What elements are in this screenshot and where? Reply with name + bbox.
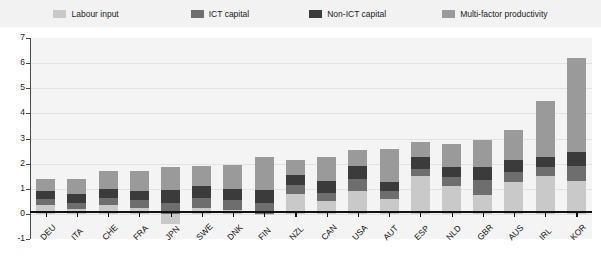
bar-column-usa[interactable] xyxy=(348,38,367,239)
bar-segment xyxy=(442,186,461,214)
bar-column-kor[interactable] xyxy=(567,38,586,239)
bar-column-can[interactable] xyxy=(317,38,336,239)
bar-column-nld[interactable] xyxy=(442,38,461,239)
x-axis-label-che: CHE xyxy=(100,222,120,242)
bar-segment xyxy=(473,167,492,180)
bar-segment xyxy=(67,194,86,203)
x-axis-label-jpn: JPN xyxy=(163,224,181,242)
legend-multi-factor-productivity-swatch-icon xyxy=(442,10,455,18)
bar-column-irl[interactable] xyxy=(536,38,555,239)
bar-segment xyxy=(161,190,180,203)
bar-column-swe[interactable] xyxy=(192,38,211,239)
bar-column-fra[interactable] xyxy=(130,38,149,239)
x-axis-tick-mark xyxy=(108,212,109,217)
x-axis-tick-mark xyxy=(483,212,484,217)
x-axis-label-aut: AUT xyxy=(381,223,400,242)
x-axis-tick-mark xyxy=(171,212,172,217)
bar-series-group xyxy=(30,38,592,239)
bar-segment xyxy=(192,166,211,186)
bar-segment xyxy=(348,150,367,166)
bar-segment xyxy=(223,200,242,210)
bar-segment xyxy=(442,144,461,168)
x-axis-label-usa: USA xyxy=(350,223,369,242)
x-axis-labels: DEUITACHEFRAJPNSWEDNKFINNZLCANUSAAUTESPN… xyxy=(30,219,592,261)
bar-segment xyxy=(348,166,367,179)
x-axis-tick-mark xyxy=(358,212,359,217)
bar-segment xyxy=(130,191,149,200)
bar-segment xyxy=(286,160,305,175)
legend-non-ict-capital-swatch-icon xyxy=(309,10,322,18)
x-axis-label-swe: SWE xyxy=(194,221,215,242)
bar-segment xyxy=(67,179,86,194)
bar-segment xyxy=(442,167,461,177)
bar-column-jpn[interactable] xyxy=(161,38,180,239)
y-axis-tick-label: 1 xyxy=(1,183,25,193)
bar-segment xyxy=(255,157,274,190)
x-axis-label-ita: ITA xyxy=(69,226,85,242)
x-axis-label-dnk: DNK xyxy=(225,222,245,242)
bar-segment xyxy=(317,181,336,192)
bar-segment xyxy=(411,169,430,177)
bar-segment xyxy=(380,191,399,199)
bar-segment xyxy=(130,171,149,191)
y-axis-tick-label: 6 xyxy=(1,57,25,67)
y-axis-tick-label: 7 xyxy=(1,32,25,42)
chart-legend: Labour inputICT capitalNon-ICT capitalMu… xyxy=(0,0,601,27)
y-axis-labels: 76543210-1 xyxy=(0,38,25,239)
bar-segment xyxy=(192,186,211,197)
bar-segment xyxy=(286,175,305,185)
x-axis-tick-mark xyxy=(264,212,265,217)
x-axis-tick-mark xyxy=(202,212,203,217)
legend-multi-factor-productivity-label: Multi-factor productivity xyxy=(460,9,547,19)
legend-ict-capital-label: ICT capital xyxy=(209,9,249,19)
bar-column-deu[interactable] xyxy=(36,38,55,239)
x-axis-tick-mark xyxy=(389,212,390,217)
legend-labour-input-swatch-icon xyxy=(53,10,66,18)
bar-segment xyxy=(130,200,149,208)
x-axis-tick-mark xyxy=(420,212,421,217)
bar-column-aut[interactable] xyxy=(380,38,399,239)
x-axis-label-can: CAN xyxy=(319,222,339,242)
y-axis-tick-label: 0 xyxy=(1,208,25,218)
legend-ict-capital: ICT capital xyxy=(191,9,249,19)
legend-labour-input: Labour input xyxy=(53,9,118,19)
bar-segment xyxy=(504,130,523,160)
bar-column-fin[interactable] xyxy=(255,38,274,239)
chart-root: Labour inputICT capitalNon-ICT capitalMu… xyxy=(0,0,601,261)
x-axis-tick-mark xyxy=(327,212,328,217)
x-axis-label-nld: NLD xyxy=(444,223,463,242)
bar-segment xyxy=(223,165,242,189)
bar-segment xyxy=(317,193,336,202)
bar-column-nzl[interactable] xyxy=(286,38,305,239)
x-axis-label-esp: ESP xyxy=(412,223,431,242)
bar-column-dnk[interactable] xyxy=(223,38,242,239)
bar-segment xyxy=(36,191,55,199)
bar-segment xyxy=(411,157,430,168)
bar-segment xyxy=(317,157,336,181)
bar-segment xyxy=(504,172,523,182)
x-axis-tick-mark xyxy=(545,212,546,217)
bar-segment xyxy=(36,179,55,192)
bar-segment xyxy=(380,149,399,183)
bar-segment xyxy=(380,182,399,191)
bar-segment xyxy=(67,203,86,209)
bar-segment xyxy=(223,189,242,200)
x-axis-tick-mark xyxy=(233,212,234,217)
bar-column-aus[interactable] xyxy=(504,38,523,239)
x-axis-label-kor: KOR xyxy=(568,222,588,242)
bar-segment xyxy=(536,101,555,158)
bar-column-esp[interactable] xyxy=(411,38,430,239)
bar-segment xyxy=(99,171,118,189)
x-axis-label-fra: FRA xyxy=(131,223,150,242)
legend-multi-factor-productivity: Multi-factor productivity xyxy=(442,9,547,19)
bar-column-gbr[interactable] xyxy=(473,38,492,239)
bar-column-che[interactable] xyxy=(99,38,118,239)
bar-column-ita[interactable] xyxy=(67,38,86,239)
x-axis-tick-mark xyxy=(452,212,453,217)
bar-segment xyxy=(36,199,55,205)
bar-segment xyxy=(504,182,523,213)
bar-segment xyxy=(161,167,180,190)
bar-segment xyxy=(99,198,118,206)
bar-segment xyxy=(411,142,430,157)
bar-segment xyxy=(504,160,523,173)
